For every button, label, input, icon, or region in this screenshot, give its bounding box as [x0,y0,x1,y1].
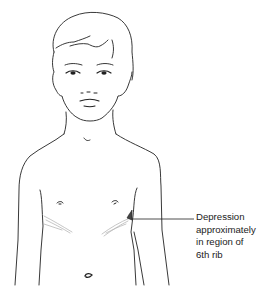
right-pupil [101,71,106,75]
head-left [53,52,133,121]
annotation-line-2: approximately [196,224,256,237]
clavicle-notch [84,138,90,141]
neck-right [113,110,116,134]
right-flank [131,188,137,285]
navel [85,274,92,278]
depression-shading [44,216,130,236]
annotation-label: Depression approximately in region of 6t… [196,211,256,261]
depression-mark [127,210,132,220]
annotation-line-1: Depression [196,211,256,224]
mouth [80,100,99,107]
right-nipple [112,201,118,205]
neck-left [64,112,66,134]
right-shoulder-arm [116,134,169,285]
hair-fringe [56,36,114,58]
left-nipple [57,202,63,205]
left-shoulder-arm [15,134,64,285]
right-eyebrow [97,64,113,66]
left-eyebrow [65,64,82,66]
annotation-line-4: 6th rib [196,249,256,262]
left-pupil [70,71,75,75]
nose [81,92,97,93]
left-flank [39,190,43,285]
annotation-line-3: in region of [196,236,256,249]
